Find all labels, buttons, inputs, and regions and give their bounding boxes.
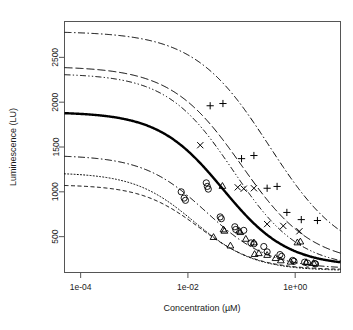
x-axis-title: Concentration (µM) xyxy=(163,303,240,313)
y-axis-title: Luminescence (LU) xyxy=(8,108,18,186)
dose-response-plot-figure: 1e-041e-021e+00 5001000150020002500 Conc… xyxy=(0,0,353,330)
y-tick-label: 1500 xyxy=(51,137,61,156)
x-tick-label: 1e-04 xyxy=(70,282,92,292)
y-tick-label: 1000 xyxy=(51,182,61,201)
y-tick-label: 2500 xyxy=(51,48,61,67)
x-tick-label: 1e+00 xyxy=(283,282,307,292)
x-tick-label: 1e-02 xyxy=(177,282,199,292)
y-tick-label: 500 xyxy=(51,229,61,243)
y-tick-label: 2000 xyxy=(51,92,61,111)
plot-svg: 1e-041e-021e+00 5001000150020002500 Conc… xyxy=(0,0,353,330)
